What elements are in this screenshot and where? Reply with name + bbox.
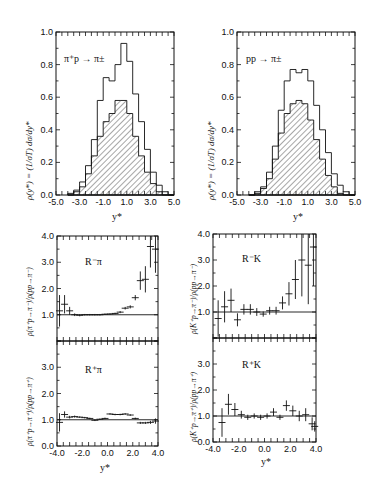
x-tick-label: -4.0 xyxy=(49,448,65,458)
panel-bottom-right: 1.02.03.04.0 0.01.02.03.0-4.0-2.00.02.04… xyxy=(189,229,322,467)
figure: 0.00.20.40.60.81.0-5.0-3.0-1.01.03.05.0 … xyxy=(0,0,381,494)
x-axis-label-bl: y* xyxy=(100,462,110,473)
data-point xyxy=(279,296,286,309)
y-axis-label-tr: ρ(y*) = (1/σT) dσ/dy* xyxy=(206,121,216,201)
y-tick-label: 3.0 xyxy=(197,359,210,369)
x-axis-label-tl: y* xyxy=(112,211,122,222)
y-tick-label: 4.0 xyxy=(197,229,210,239)
y-tick-label: 0.6 xyxy=(40,92,53,102)
x-tick-label: 0.0 xyxy=(258,444,271,454)
y-tick-label: 0.4 xyxy=(40,125,53,135)
data-point xyxy=(221,291,228,322)
data-point xyxy=(231,403,238,416)
data-point xyxy=(66,307,73,315)
data-point xyxy=(228,289,235,312)
panel-top-left: 0.00.20.40.60.81.0-5.0-3.0-1.01.03.05.0 … xyxy=(24,27,180,222)
y-tick-label: 2.0 xyxy=(197,385,210,395)
y-tick-label: 0.8 xyxy=(221,60,234,70)
data-point xyxy=(285,282,292,305)
x-tick-label: 5.0 xyxy=(168,197,181,207)
y-tick-label: 2.0 xyxy=(41,284,54,294)
y-tick-label: 1.0 xyxy=(197,411,210,421)
data-point xyxy=(302,408,309,421)
y-tick-label: 3.0 xyxy=(41,362,54,372)
x-tick-label: 3.0 xyxy=(144,197,157,207)
label-r-k-plus: R⁺K xyxy=(242,359,262,370)
x-tick-label: -2.0 xyxy=(231,444,247,454)
y-tick-label: 0.6 xyxy=(221,92,234,102)
panel-bottom-left: 1.02.03.04.0 0.01.02.03.0-4.0-2.00.02.04… xyxy=(25,231,164,473)
data-point xyxy=(264,413,271,418)
data-point xyxy=(137,271,144,289)
data-point xyxy=(142,266,149,292)
x-tick-label: 1.0 xyxy=(302,197,315,207)
x-tick-label: -5.0 xyxy=(229,197,245,207)
y-axis-label-tl: ρ(y*) = (1/σT) dσ/dy* xyxy=(24,121,34,201)
y-tick-label: 2.0 xyxy=(197,281,210,291)
data-point xyxy=(276,415,283,420)
data-point xyxy=(266,307,273,315)
y-tick-label: 4.0 xyxy=(41,231,54,241)
x-tick-label: -4.0 xyxy=(205,444,221,454)
y-tick-label: 0.2 xyxy=(40,157,53,167)
data-point xyxy=(253,308,260,316)
data-point xyxy=(238,411,245,419)
data-point xyxy=(273,307,280,315)
data-point xyxy=(283,400,290,410)
data-point xyxy=(305,234,312,304)
data-point xyxy=(234,313,241,326)
x-tick-label: 2.0 xyxy=(126,448,139,458)
y-tick-label: 3.0 xyxy=(197,255,210,265)
label-r-pi-minus: R⁻π xyxy=(85,256,102,267)
x-axis-label-tr: y* xyxy=(293,211,303,222)
x-tick-label: -3.0 xyxy=(253,197,269,207)
y-axis-label-bl-bot: ρ(π⁺p→π⁺)/ρ(pp→π⁺) xyxy=(25,377,34,447)
x-tick-label: 4.0 xyxy=(152,448,165,458)
y-axis-label-br-bot: ρ(K⁺p→π⁺)/ρ(pp→π⁺) xyxy=(189,371,198,443)
data-point xyxy=(117,311,124,313)
data-point xyxy=(251,413,258,418)
y-axis-label-br-top: ρ(K⁺p→π⁻)/ρ(pp→π⁻) xyxy=(189,263,198,335)
x-tick-label: -2.0 xyxy=(74,448,90,458)
x-tick-label: 0.0 xyxy=(101,448,114,458)
y-tick-label: 1.0 xyxy=(221,27,234,37)
data-point xyxy=(127,414,134,416)
label-r-k-minus: R⁻K xyxy=(242,253,262,264)
data-point xyxy=(270,408,277,416)
histogram-series xyxy=(249,100,355,195)
data-point xyxy=(298,234,305,296)
label-r-pi-plus: R⁺π xyxy=(85,364,102,375)
x-tick-label: -3.0 xyxy=(72,197,88,207)
x-tick-label: -1.0 xyxy=(95,197,111,207)
y-axis-label-bl-top: ρ(π⁺p→π⁻)/ρ(pp→π⁻) xyxy=(25,267,34,337)
data-point xyxy=(132,418,139,420)
title-pp: pp → π± xyxy=(246,53,282,64)
data-point xyxy=(132,295,139,300)
y-tick-label: 3.0 xyxy=(41,257,54,267)
data-point xyxy=(240,304,247,314)
histogram-series xyxy=(68,100,174,195)
x-tick-label: 4.0 xyxy=(310,444,323,454)
y-tick-label: 0.2 xyxy=(221,157,234,167)
y-tick-label: 1.0 xyxy=(41,415,54,425)
data-point xyxy=(219,408,226,437)
data-point xyxy=(257,415,264,420)
x-tick-label: -1.0 xyxy=(276,197,292,207)
y-tick-label: 1.0 xyxy=(41,310,54,320)
data-point xyxy=(296,411,303,421)
y-tick-label: 1.0 xyxy=(197,307,210,317)
title-pi-p: π⁺p → π± xyxy=(64,53,105,64)
x-axis-label-br: y* xyxy=(261,456,271,467)
x-tick-label: 3.0 xyxy=(325,197,338,207)
data-point xyxy=(225,394,232,415)
y-tick-label: 2.0 xyxy=(41,389,54,399)
data-point xyxy=(292,260,299,299)
data-point xyxy=(289,406,296,416)
panel-top-right: 0.00.20.40.60.81.0-5.0-3.0-1.01.03.05.0 … xyxy=(206,27,361,222)
y-tick-label: 0.8 xyxy=(40,60,53,70)
data-point xyxy=(247,304,254,314)
y-tick-label: 0.4 xyxy=(221,125,234,135)
x-tick-label: 5.0 xyxy=(349,197,362,207)
data-point xyxy=(244,415,251,420)
y-tick-label: 1.0 xyxy=(40,27,53,37)
